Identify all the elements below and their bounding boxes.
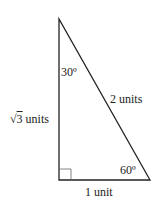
vertical-side-label: √3 units: [10, 113, 49, 125]
hypotenuse-label: 2 units: [110, 93, 142, 105]
radical-sign: √: [10, 112, 17, 126]
right-angle-marker: [59, 169, 71, 180]
vertical-unit: units: [23, 112, 49, 126]
base-label: 1 unit: [85, 186, 113, 198]
angle-60-label: 60º: [120, 164, 136, 176]
angle-30-label: 30º: [61, 66, 77, 78]
